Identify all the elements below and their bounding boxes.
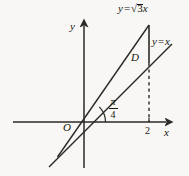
equation-steep-operator: = bbox=[123, 2, 131, 14]
math-figure: y x O 2 D y=√3x y=x π 4 bbox=[0, 0, 189, 176]
angle-numerator: π bbox=[106, 97, 120, 107]
radical-group: √3 bbox=[131, 3, 143, 14]
y-axis-label: y bbox=[70, 21, 75, 32]
equation-label-steep-line: y=√3x bbox=[118, 3, 148, 14]
x-axis-label: x bbox=[164, 127, 169, 138]
line-y-equals-sqrt3-x bbox=[58, 25, 150, 157]
equation-steep-variable: x bbox=[143, 2, 148, 14]
equation-diagonal-variable: x bbox=[165, 35, 170, 47]
equation-diagonal-operator: = bbox=[157, 35, 165, 47]
point-d-label: D bbox=[131, 52, 139, 63]
radical-bar bbox=[137, 4, 142, 5]
angle-denominator: 4 bbox=[106, 110, 120, 120]
x-tick-label-2: 2 bbox=[145, 126, 150, 136]
equation-label-diagonal-line: y=x bbox=[152, 36, 170, 47]
origin-label: O bbox=[63, 122, 71, 133]
figure-canvas bbox=[0, 0, 189, 176]
angle-label-pi-over-four: π 4 bbox=[106, 97, 120, 120]
